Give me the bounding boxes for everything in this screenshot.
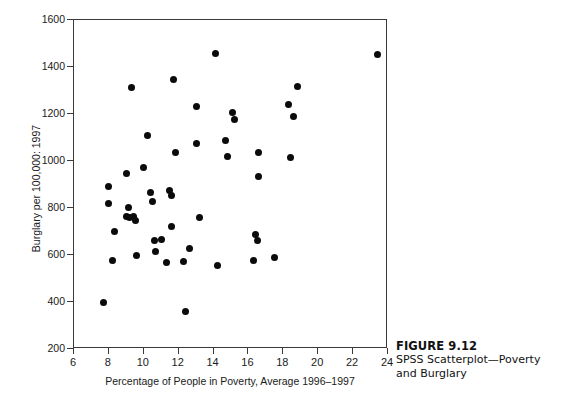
y-axis-tick	[67, 160, 73, 161]
x-axis-tick	[178, 348, 179, 354]
x-axis-tick	[352, 348, 353, 354]
y-axis-tick	[67, 254, 73, 255]
x-axis-tick-label: 8	[93, 356, 123, 368]
x-axis-tick	[143, 348, 144, 354]
x-axis-tick	[282, 348, 283, 354]
data-point	[152, 248, 159, 255]
figure-caption: FIGURE 9.12 SPSS Scatterplot—Poverty and…	[396, 339, 560, 381]
x-axis-tick	[247, 348, 248, 354]
data-point	[140, 164, 147, 171]
x-axis-tick	[317, 348, 318, 354]
figure-container: 2004006008001000120014001600 68101214161…	[0, 0, 562, 403]
x-axis-tick-label: 6	[58, 356, 88, 368]
data-point	[149, 198, 156, 205]
y-axis-tick-label: 800	[22, 202, 65, 212]
x-axis-tick	[73, 348, 74, 354]
data-point	[133, 252, 140, 259]
data-point	[168, 192, 175, 199]
data-point	[163, 259, 170, 266]
x-axis-tick-label: 10	[128, 356, 158, 368]
y-axis-tick	[67, 66, 73, 67]
y-axis-tick	[67, 207, 73, 208]
data-point	[294, 83, 301, 90]
figure-caption-text: SPSS Scatterplot—Poverty and Burglary	[396, 353, 560, 381]
data-point	[250, 257, 257, 264]
x-axis-tick-label: 20	[302, 356, 332, 368]
data-point	[172, 149, 179, 156]
x-axis-tick-label: 12	[163, 356, 193, 368]
data-point	[182, 308, 189, 315]
y-axis-tick-label: 600	[22, 249, 65, 259]
y-axis-title: Burglary per 100,000: 1997	[31, 79, 42, 299]
x-axis-tick	[108, 348, 109, 354]
y-axis-tick-label: 1600	[22, 14, 65, 24]
data-point	[186, 245, 193, 252]
data-point	[147, 189, 154, 196]
y-axis-tick-label: 1200	[22, 108, 65, 118]
x-axis-tick-label: 14	[198, 356, 228, 368]
data-point	[151, 237, 158, 244]
data-point	[125, 204, 132, 211]
data-point	[168, 223, 175, 230]
data-point	[212, 50, 219, 57]
data-point	[222, 137, 229, 144]
data-point	[109, 257, 116, 264]
data-point	[105, 183, 112, 190]
data-point	[287, 154, 294, 161]
data-point	[285, 101, 292, 108]
data-point	[111, 228, 118, 235]
data-point	[196, 214, 203, 221]
data-point	[158, 236, 165, 243]
data-point	[193, 140, 200, 147]
data-point	[123, 170, 130, 177]
data-point	[100, 299, 107, 306]
x-axis-tick-label: 22	[337, 356, 367, 368]
x-axis-tick	[213, 348, 214, 354]
y-axis-tick-label: 1400	[22, 61, 65, 71]
data-point	[180, 258, 187, 265]
data-point	[224, 153, 231, 160]
x-axis-tick	[387, 348, 388, 354]
data-point	[105, 200, 112, 207]
x-axis-tick-label: 16	[232, 356, 262, 368]
data-point	[144, 132, 151, 139]
data-point	[290, 113, 297, 120]
data-point	[271, 254, 278, 261]
x-axis-tick-label: 18	[267, 356, 297, 368]
x-axis-title: Percentage of People in Poverty, Average…	[60, 375, 400, 387]
scatterplot-plot-area	[73, 19, 387, 348]
figure-caption-title: FIGURE 9.12	[396, 339, 560, 353]
y-axis-tick	[67, 113, 73, 114]
data-point	[128, 84, 135, 91]
data-point	[193, 103, 200, 110]
data-point	[254, 237, 261, 244]
data-point	[170, 76, 177, 83]
data-point	[255, 149, 262, 156]
y-axis-tick-label: 200	[22, 343, 65, 353]
y-axis-tick	[67, 301, 73, 302]
data-point	[132, 217, 139, 224]
data-point	[374, 51, 381, 58]
data-point	[255, 173, 262, 180]
data-point	[214, 262, 221, 269]
y-axis-tick-label: 1000	[22, 155, 65, 165]
y-axis-tick-label: 400	[22, 296, 65, 306]
y-axis-tick	[67, 19, 73, 20]
data-point	[231, 116, 238, 123]
